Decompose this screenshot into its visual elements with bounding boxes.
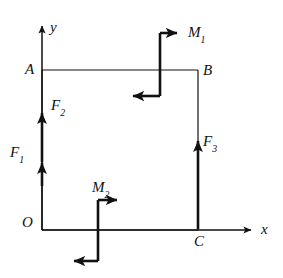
y-axis-label: y [50, 20, 57, 35]
force-label-F1: F1 [10, 145, 24, 163]
point-label-B: B [203, 63, 212, 78]
diagram-svg [0, 0, 283, 278]
point-label-A: A [25, 62, 34, 77]
force-label-F2: F2 [51, 98, 65, 116]
figure-canvas: A B C O y x F1 F2 F3 M1 M2 [0, 0, 283, 278]
moment-couple-M1 [133, 33, 177, 96]
moment-label-M1: M1 [188, 25, 205, 43]
x-axis-label: x [261, 222, 268, 237]
force-label-F3: F3 [203, 134, 217, 152]
moment-label-M2: M2 [92, 180, 109, 198]
coordinate-axes [42, 26, 251, 230]
frame-rectangle [42, 70, 198, 230]
point-label-O: O [22, 215, 33, 230]
point-label-C: C [194, 234, 204, 249]
